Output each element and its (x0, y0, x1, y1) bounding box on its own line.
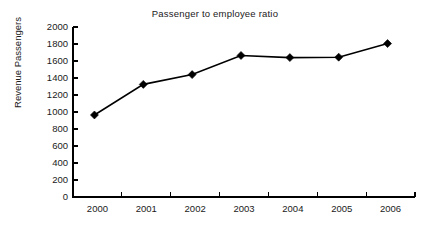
line-chart-figure: Passenger to employee ratio Revenue Pass… (0, 0, 430, 231)
y-tick-label: 600 (52, 140, 68, 151)
x-tick-label: 2001 (136, 203, 157, 214)
x-tick-label: 2003 (233, 203, 254, 214)
y-axis-tick-marks (73, 27, 78, 197)
data-point-marker (188, 71, 196, 79)
axis-frame (73, 27, 415, 197)
data-point-marker (384, 40, 392, 48)
data-point-marker (286, 54, 294, 62)
x-tick-label: 2004 (282, 203, 303, 214)
y-tick-label: 1000 (47, 106, 68, 117)
x-axis-tick-marks (73, 192, 415, 197)
y-tick-label: 0 (63, 191, 68, 202)
data-point-marker (335, 53, 343, 61)
y-tick-label: 200 (52, 174, 68, 185)
y-tick-label: 1400 (47, 72, 68, 83)
x-axis-tick-labels: 2000200120022003200420052006 (87, 203, 401, 214)
y-tick-label: 1600 (47, 55, 68, 66)
y-tick-label: 800 (52, 123, 68, 134)
y-axis-tick-labels: 0200400600800100012001400160018002000 (47, 21, 68, 202)
y-tick-label: 400 (52, 157, 68, 168)
data-point-marker (237, 51, 245, 59)
x-tick-label: 2005 (331, 203, 352, 214)
x-tick-label: 2000 (87, 203, 108, 214)
x-tick-label: 2002 (185, 203, 206, 214)
x-tick-label: 2006 (380, 203, 401, 214)
data-point-marker (90, 111, 98, 119)
y-tick-label: 2000 (47, 21, 68, 32)
y-tick-label: 1200 (47, 89, 68, 100)
plot-area: 0200400600800100012001400160018002000 20… (0, 0, 430, 231)
series-markers (90, 40, 391, 119)
data-point-marker (139, 80, 147, 88)
y-tick-label: 1800 (47, 38, 68, 49)
